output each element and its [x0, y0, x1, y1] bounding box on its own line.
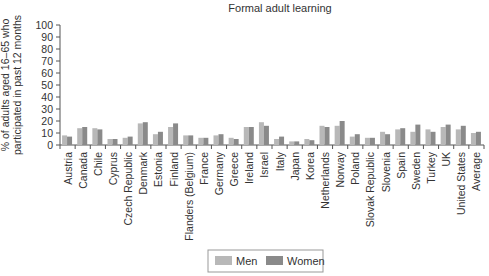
y-tick-label: 60	[41, 67, 53, 79]
x-category-label: Israel	[258, 152, 270, 178]
x-category-label: Czech Republic	[122, 152, 134, 226]
chart: Formal adult learning % of adults aged 1…	[0, 0, 489, 276]
bar-men	[92, 128, 97, 145]
x-category-label: Netherlands	[319, 152, 331, 209]
bar-men	[410, 132, 415, 145]
bar-men	[426, 129, 431, 145]
legend: Men Women	[208, 250, 325, 272]
bar-men	[153, 134, 158, 145]
x-category-label: Korea	[304, 152, 316, 180]
bar-women	[113, 139, 118, 145]
bars	[62, 121, 481, 145]
y-axis-label-line-1: % of adults aged 16–65 who	[0, 19, 11, 152]
bar-women	[249, 127, 254, 145]
bar-men	[304, 139, 309, 145]
bar-men	[380, 132, 385, 145]
y-axis-label-group: % of adults aged 16–65 who participated …	[0, 15, 23, 155]
y-tick-label: 10	[41, 127, 53, 139]
bar-men	[395, 129, 400, 145]
bar-men	[456, 129, 461, 145]
bar-men	[335, 126, 340, 145]
bar-women	[67, 137, 72, 145]
bar-women	[309, 140, 314, 145]
x-category-label: Germany	[213, 151, 225, 195]
bar-women	[158, 132, 163, 145]
y-tick-label: 80	[41, 43, 53, 55]
bar-women	[476, 132, 481, 145]
bar-men	[244, 127, 249, 145]
bar-women	[355, 134, 360, 145]
bar-men	[229, 138, 234, 145]
bar-men	[274, 139, 279, 145]
bar-women	[400, 128, 405, 145]
x-category-label: Canada	[77, 152, 89, 189]
bar-men	[365, 138, 370, 145]
bar-men	[168, 127, 173, 145]
bar-men	[77, 128, 82, 145]
y-axis: 0102030405060708090100	[35, 19, 60, 151]
legend-label-women: Women	[287, 255, 325, 267]
x-category-label: Average	[470, 152, 482, 191]
x-category-label: Chile	[92, 152, 104, 176]
bar-women	[264, 126, 269, 145]
y-tick-label: 100	[35, 19, 53, 31]
y-tick-label: 40	[41, 91, 53, 103]
category-labels: AustriaCanadaChileCyprusCzech RepublicDe…	[62, 151, 483, 240]
bar-men	[289, 141, 294, 145]
bar-women	[279, 137, 284, 145]
x-category-label: Ireland	[243, 152, 255, 184]
x-category-label: Estonia	[152, 152, 164, 187]
y-tick-label: 20	[41, 115, 53, 127]
legend-label-men: Men	[236, 255, 257, 267]
bar-women	[294, 141, 299, 145]
bar-women	[82, 127, 87, 145]
bar-women	[385, 134, 390, 145]
bar-women	[173, 123, 178, 145]
x-category-label: Greece	[228, 152, 240, 187]
y-tick-label: 70	[41, 55, 53, 67]
y-tick-label: 0	[47, 139, 53, 151]
bar-women	[340, 121, 345, 145]
bar-men	[214, 135, 219, 145]
x-category-label: Denmark	[137, 151, 149, 194]
x-category-label: Austria	[62, 152, 74, 185]
x-category-label: United States	[455, 152, 467, 215]
y-tick-label: 90	[41, 31, 53, 43]
y-tick-label: 30	[41, 103, 53, 115]
y-tick-label: 50	[41, 79, 53, 91]
bar-women	[446, 125, 451, 145]
x-category-label: Japan	[289, 152, 301, 181]
bar-men	[471, 133, 476, 145]
bar-women	[188, 135, 193, 145]
x-category-label: Flanders (Belgium)	[183, 152, 195, 241]
bar-women	[97, 129, 102, 145]
x-axis	[60, 145, 484, 149]
bar-women	[219, 134, 224, 145]
bar-men	[108, 139, 113, 145]
bar-men	[441, 127, 446, 145]
bar-women	[203, 138, 208, 145]
x-category-label: Poland	[349, 152, 361, 185]
bar-men	[123, 138, 128, 145]
legend-swatch-women	[266, 256, 283, 265]
x-category-label: Norway	[334, 151, 346, 187]
bar-men	[259, 122, 264, 145]
bar-men	[320, 126, 325, 145]
x-category-label: Slovak Republic	[364, 152, 376, 227]
x-category-label: Cyprus	[107, 152, 119, 185]
bar-men	[198, 138, 203, 145]
bar-women	[128, 137, 133, 145]
x-category-label: Sweden	[410, 152, 422, 190]
bar-men	[350, 137, 355, 145]
x-category-label: France	[198, 152, 210, 185]
chart-title: Formal adult learning	[228, 2, 331, 14]
x-category-label: Italy	[274, 151, 286, 171]
bar-women	[370, 138, 375, 145]
bar-women	[461, 126, 466, 145]
bar-women	[234, 139, 239, 145]
y-axis-label-line-2: participated in past 12 months	[11, 15, 23, 155]
legend-swatch-men	[215, 256, 232, 265]
bar-men	[183, 135, 188, 145]
x-category-label: UK	[440, 152, 452, 167]
bar-men	[138, 123, 143, 145]
